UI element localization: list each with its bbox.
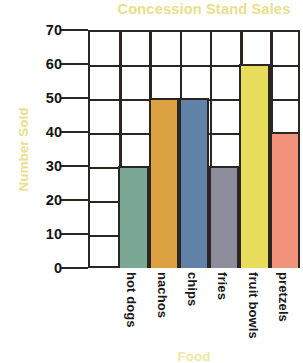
x-axis-label-fries: fries: [215, 272, 230, 300]
x-axis-label-pretzels: pretzels: [276, 272, 291, 322]
y-axis-tick-label: 30: [28, 158, 62, 174]
bar-chart: Concession Stand Sales Number Sold 01020…: [0, 0, 303, 363]
y-axis-tick-label: 20: [28, 192, 62, 208]
x-axis-label-hot-dogs: hot dogs: [124, 272, 139, 328]
y-axis-tick-label: 60: [28, 56, 62, 72]
x-axis-label-fruit-bowls: fruit bowls: [246, 272, 261, 339]
bar-pretzels: [270, 132, 300, 268]
y-axis-tick-label: 40: [28, 124, 62, 140]
bar-nachos: [149, 98, 179, 268]
y-axis-tick-mark: [61, 199, 88, 201]
y-axis-tick-mark: [61, 97, 88, 99]
y-axis-tick-label: 50: [28, 90, 62, 106]
bar-chips: [179, 98, 209, 268]
bar-fruit-bowls: [239, 64, 269, 268]
x-axis-title: Food: [88, 349, 300, 363]
chart-title: Concession Stand Sales: [105, 1, 303, 17]
x-axis-label-nachos: nachos: [155, 272, 170, 318]
x-axis-label-chips: chips: [185, 272, 200, 306]
y-axis-tick-label: 0: [28, 260, 62, 276]
y-axis-tick-mark: [61, 63, 88, 65]
y-axis-tick-mark: [61, 165, 88, 167]
y-axis-tick-mark: [61, 29, 88, 31]
bar-fries: [209, 166, 239, 268]
y-axis-tick-mark: [61, 131, 88, 133]
y-axis-tick-label: 10: [28, 226, 62, 242]
y-axis-tick-mark: [61, 267, 88, 269]
y-axis-tick-label: 70: [28, 22, 62, 38]
bar-hot-dogs: [118, 166, 148, 268]
y-axis-tick-mark: [61, 233, 88, 235]
